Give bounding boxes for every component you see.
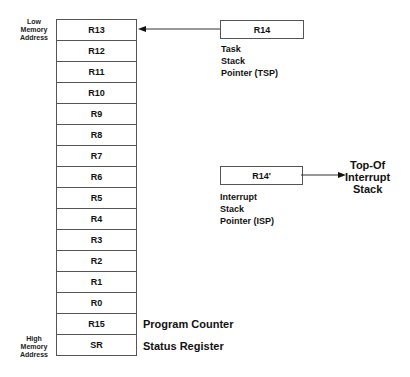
label-line: High: [14, 335, 54, 343]
stack-cell-r1: R1: [56, 272, 137, 293]
desc-line: Task: [221, 43, 278, 55]
isp-description: Interrupt Stack Pointer (ISP): [220, 191, 274, 227]
stack-cell-r2: R2: [56, 251, 137, 272]
label-line: Address: [14, 351, 54, 359]
high-memory-address-label: High Memory Address: [14, 335, 54, 359]
desc-line: Stack: [220, 203, 274, 215]
stack-cell-r5: R5: [56, 188, 137, 209]
label-line: Address: [14, 34, 54, 42]
tsp-description: Task Stack Pointer (TSP): [221, 43, 278, 79]
stack-cell-r10: R10: [56, 83, 137, 104]
stack-cell-r0: R0: [56, 293, 137, 314]
isp-register-box: R14': [220, 166, 303, 185]
stack-cell-r8: R8: [56, 125, 137, 146]
label-line: Memory: [14, 26, 54, 34]
desc-line: Pointer (TSP): [221, 67, 278, 79]
desc-line: Interrupt: [220, 191, 274, 203]
status-register-label: Status Register: [143, 340, 224, 352]
isp-arrow-icon: [301, 169, 347, 181]
target-line: Top-Of: [345, 159, 390, 171]
register-stack: R13 R12 R11 R10 R9 R8 R7 R6 R5 R4 R3 R2 …: [56, 19, 137, 356]
stack-cell-r4: R4: [56, 209, 137, 230]
stack-cell-r13: R13: [56, 19, 137, 41]
tsp-arrow-icon: [137, 22, 221, 36]
stack-cell-sr: SR: [56, 335, 137, 356]
target-line: Interrupt: [345, 171, 390, 183]
program-counter-label: Program Counter: [143, 318, 233, 330]
stack-cell-r15: R15: [56, 314, 137, 335]
label-line: Memory: [14, 343, 54, 351]
desc-line: Pointer (ISP): [220, 215, 274, 227]
label-line: Low: [14, 18, 54, 26]
tsp-register-box: R14: [220, 20, 304, 39]
desc-line: Stack: [221, 55, 278, 67]
target-line: Stack: [345, 183, 390, 195]
low-memory-address-label: Low Memory Address: [14, 18, 54, 42]
top-of-interrupt-stack-label: Top-Of Interrupt Stack: [345, 159, 390, 195]
stack-cell-r12: R12: [56, 41, 137, 62]
stack-cell-r3: R3: [56, 230, 137, 251]
stack-cell-r6: R6: [56, 167, 137, 188]
stack-cell-r7: R7: [56, 146, 137, 167]
stack-cell-r11: R11: [56, 62, 137, 83]
stack-cell-r9: R9: [56, 104, 137, 125]
